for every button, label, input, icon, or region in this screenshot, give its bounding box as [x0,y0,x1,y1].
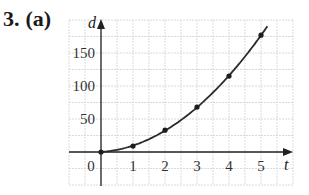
data-point [130,143,135,148]
y-tick-label: 150 [73,45,96,61]
y-tick-label: 50 [80,111,95,127]
data-point [98,149,103,154]
data-point [194,105,199,110]
x-axis-label: t [284,156,289,173]
x-tick-label: 1 [129,158,137,174]
x-tick-label: 3 [193,158,201,174]
y-axis-arrow-icon [97,19,105,29]
data-point [162,128,167,133]
y-tick-label: 100 [73,78,96,94]
y-axis-label: d [88,14,97,31]
x-tick-label: 2 [161,158,169,174]
x-tick-label: 5 [257,158,265,174]
x-tick-label: 4 [225,158,233,174]
data-point [226,74,231,79]
x-tick-label: 0 [87,158,95,174]
x-axis-arrow-icon [283,148,293,156]
chart: 01234550100150 d t [0,0,309,195]
data-point [258,33,263,38]
data-curve [101,26,267,152]
